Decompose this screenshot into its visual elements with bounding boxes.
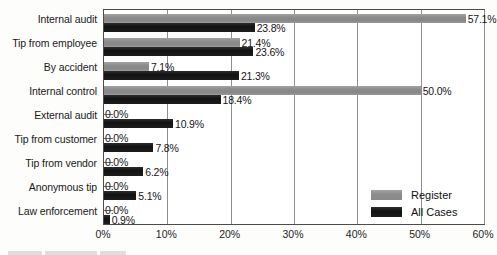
bar-group: 0.0%10.9% bbox=[104, 106, 484, 130]
cropped-caption-fragment bbox=[8, 247, 178, 255]
bar-all-cases bbox=[104, 119, 173, 128]
bar-value-label: 10.9% bbox=[175, 119, 204, 129]
bar-group: 7.1%21.3% bbox=[104, 58, 484, 82]
category-label: By accident bbox=[1, 62, 97, 73]
chart-legend: Register All Cases bbox=[371, 187, 479, 221]
xtick-label: 10% bbox=[156, 228, 177, 240]
bar-all-cases bbox=[104, 167, 143, 176]
bar-value-label: 0.0% bbox=[105, 133, 128, 143]
xtick-label: 0% bbox=[95, 228, 110, 240]
category-label: Tip from customer bbox=[1, 134, 97, 145]
bar-all-cases bbox=[104, 71, 239, 80]
bar-value-label: 23.8% bbox=[257, 23, 286, 33]
bar-value-label: 18.4% bbox=[223, 95, 252, 105]
bar-group: 50.0%18.4% bbox=[104, 82, 484, 106]
bar-all-cases bbox=[104, 215, 110, 224]
category-label: Internal control bbox=[1, 86, 97, 97]
bar-value-label: 0.9% bbox=[112, 215, 135, 225]
bar-all-cases bbox=[104, 23, 255, 32]
horizontal-bar-chart: Internal auditTip from employeeBy accide… bbox=[0, 0, 497, 255]
xtick-label: 30% bbox=[282, 228, 303, 240]
bar-value-label: 5.1% bbox=[138, 191, 161, 201]
bar-value-label: 7.8% bbox=[155, 143, 178, 153]
xtick-label: 40% bbox=[346, 228, 367, 240]
register-swatch bbox=[371, 190, 402, 200]
bar-all-cases bbox=[104, 47, 253, 56]
bar-group: 0.0%7.8% bbox=[104, 130, 484, 154]
category-label: Tip from employee bbox=[1, 38, 97, 49]
category-label: Internal audit bbox=[1, 14, 97, 25]
bar-group: 57.1%23.8% bbox=[104, 10, 484, 34]
bar-value-label: 0.0% bbox=[105, 109, 128, 119]
bar-value-label: 21.3% bbox=[241, 71, 270, 81]
bar-all-cases bbox=[104, 143, 153, 152]
bar-value-label: 6.2% bbox=[145, 167, 168, 177]
category-axis: Internal auditTip from employeeBy accide… bbox=[0, 8, 100, 224]
category-label: Anonymous tip bbox=[1, 182, 97, 193]
bar-all-cases bbox=[104, 95, 221, 104]
legend-item-register: Register bbox=[371, 187, 479, 204]
bar-register bbox=[104, 62, 149, 71]
bar-group: 0.0%6.2% bbox=[104, 154, 484, 178]
bar-register bbox=[104, 38, 240, 47]
legend-item-all-cases: All Cases bbox=[371, 204, 479, 221]
bar-value-label: 0.0% bbox=[105, 181, 128, 191]
all-cases-swatch bbox=[371, 207, 402, 217]
bar-value-label: 57.1% bbox=[468, 14, 497, 24]
value-axis: 0%10%20%30%40%50%60% bbox=[103, 228, 485, 244]
xtick-label: 60% bbox=[472, 228, 493, 240]
bar-value-label: 23.6% bbox=[255, 47, 284, 57]
bar-value-label: 0.0% bbox=[105, 157, 128, 167]
bar-register bbox=[104, 86, 421, 95]
xtick-label: 50% bbox=[409, 228, 430, 240]
bar-value-label: 50.0% bbox=[423, 86, 452, 96]
legend-label-register: Register bbox=[411, 187, 452, 203]
xtick-label: 20% bbox=[219, 228, 240, 240]
category-label: External audit bbox=[1, 110, 97, 121]
bar-group: 21.4%23.6% bbox=[104, 34, 484, 58]
category-label: Law enforcement bbox=[1, 206, 97, 217]
gridline-60 bbox=[484, 10, 485, 224]
legend-label-all-cases: All Cases bbox=[411, 204, 457, 220]
bar-all-cases bbox=[104, 191, 136, 200]
category-label: Tip from vendor bbox=[1, 158, 97, 169]
